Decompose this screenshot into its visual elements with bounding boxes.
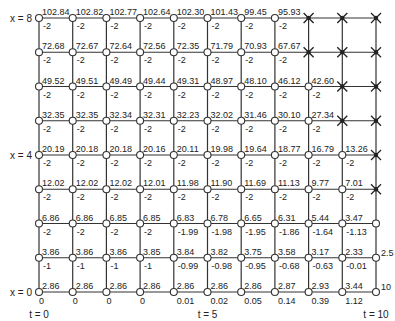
node-value: 49.49 bbox=[109, 76, 132, 86]
node-value: 2.87 bbox=[278, 281, 296, 291]
node-value: 20.16 bbox=[143, 144, 166, 154]
node-value: 3.82 bbox=[211, 247, 229, 257]
node-value: 3.75 bbox=[244, 247, 262, 257]
node-slope: -2 bbox=[178, 21, 186, 31]
bottom-value: 0 bbox=[73, 296, 78, 306]
node-value: 3.17 bbox=[312, 247, 330, 257]
node-slope: -2 bbox=[144, 90, 152, 100]
node-value: 32.23 bbox=[177, 110, 200, 120]
node-value: 49.31 bbox=[177, 76, 200, 86]
node-slope: -1 bbox=[110, 261, 118, 271]
node-slope: -2 bbox=[43, 124, 51, 134]
node-slope: -2 bbox=[212, 90, 220, 100]
bottom-value: 0 bbox=[140, 296, 145, 306]
node-slope: -1.86 bbox=[279, 227, 300, 237]
bottom-value: 0.05 bbox=[244, 296, 262, 306]
node-value: 72.35 bbox=[177, 41, 200, 51]
node-slope: -1.99 bbox=[178, 227, 199, 237]
node-value: 32.31 bbox=[143, 110, 166, 120]
node-value: 2.86 bbox=[143, 281, 161, 291]
node-value: 72.64 bbox=[109, 41, 132, 51]
boundary-value-label: 2.5 bbox=[381, 248, 394, 258]
node-slope: -2 bbox=[144, 124, 152, 134]
node-slope: -1.13 bbox=[346, 227, 367, 237]
node-value: 16.79 bbox=[312, 144, 335, 154]
row-axis-label: x = 4 bbox=[10, 150, 32, 161]
node-slope: -2 bbox=[178, 55, 186, 65]
node-value: 49.52 bbox=[42, 76, 65, 86]
node-slope: -2 bbox=[43, 55, 51, 65]
node-value: 3.84 bbox=[177, 247, 195, 257]
node-value: 2.93 bbox=[312, 281, 330, 291]
node-slope: -2 bbox=[245, 90, 253, 100]
node-value: 20.18 bbox=[109, 144, 132, 154]
node-slope: -2 bbox=[245, 158, 253, 168]
node-value: 71.79 bbox=[211, 41, 234, 51]
node-slope: -2 bbox=[245, 124, 253, 134]
node-value: 12.02 bbox=[42, 178, 65, 188]
node-slope: -2 bbox=[110, 21, 118, 31]
node-slope: -2 bbox=[43, 227, 51, 237]
node-slope: -2 bbox=[110, 124, 118, 134]
node-value: 42.60 bbox=[312, 76, 335, 86]
node-slope: -2 bbox=[313, 192, 321, 202]
node-value: 12.02 bbox=[109, 178, 132, 188]
node-slope: -1 bbox=[77, 261, 85, 271]
node-slope: -0.68 bbox=[279, 261, 300, 271]
node-slope: -1 bbox=[144, 261, 152, 271]
node-value: 6.65 bbox=[244, 213, 262, 223]
col-axis-label: t = 10 bbox=[363, 309, 389, 320]
bottom-value: 0.39 bbox=[312, 296, 330, 306]
node-value: 19.98 bbox=[211, 144, 234, 154]
node-slope: -2 bbox=[212, 192, 220, 202]
node-slope: -2 bbox=[110, 227, 118, 237]
node-value: 6.86 bbox=[76, 213, 94, 223]
row-axis-label: x = 8 bbox=[10, 13, 32, 24]
grid-node bbox=[373, 289, 380, 296]
node-slope: -1.95 bbox=[245, 227, 266, 237]
node-slope: -2 bbox=[77, 55, 85, 65]
node-slope: -2 bbox=[279, 90, 287, 100]
node-value: 46.12 bbox=[278, 76, 301, 86]
node-slope: -2 bbox=[279, 21, 287, 31]
node-slope: -0.98 bbox=[212, 261, 233, 271]
node-slope: -2 bbox=[77, 90, 85, 100]
node-value: 102.64 bbox=[143, 7, 171, 17]
grid-labels: 102.84102.82102.77102.64102.30101.4399.4… bbox=[10, 7, 393, 320]
grid-node bbox=[373, 254, 380, 261]
node-value: 102.30 bbox=[177, 7, 205, 17]
bottom-value: 0.14 bbox=[278, 296, 296, 306]
node-value: 95.93 bbox=[278, 7, 301, 17]
node-slope: -2 bbox=[212, 158, 220, 168]
node-value: 31.46 bbox=[244, 110, 267, 120]
node-slope: -2 bbox=[144, 21, 152, 31]
node-slope: -2 bbox=[313, 124, 321, 134]
node-value: 6.78 bbox=[211, 213, 229, 223]
node-slope: -2 bbox=[346, 158, 354, 168]
node-slope: -2 bbox=[110, 192, 118, 202]
node-value: 12.02 bbox=[76, 178, 99, 188]
node-slope: -2 bbox=[144, 192, 152, 202]
node-value: 3.86 bbox=[109, 247, 127, 257]
node-slope: -2 bbox=[77, 21, 85, 31]
node-value: 6.31 bbox=[278, 213, 296, 223]
node-value: 2.33 bbox=[345, 247, 363, 257]
node-slope: -2 bbox=[212, 21, 220, 31]
node-value: 2.86 bbox=[109, 281, 127, 291]
node-slope: -2 bbox=[43, 192, 51, 202]
node-slope: -2 bbox=[77, 158, 85, 168]
node-slope: -2 bbox=[110, 158, 118, 168]
col-axis-label: t = 5 bbox=[198, 309, 218, 320]
node-value: 102.84 bbox=[42, 7, 70, 17]
node-slope: -2 bbox=[178, 124, 186, 134]
node-value: 20.18 bbox=[76, 144, 99, 154]
node-value: 99.45 bbox=[244, 7, 267, 17]
node-value: 3.44 bbox=[345, 281, 363, 291]
node-value: 102.82 bbox=[76, 7, 104, 17]
boundary-value-label: 10 bbox=[381, 282, 391, 292]
node-slope: -2 bbox=[279, 55, 287, 65]
node-value: 6.85 bbox=[143, 213, 161, 223]
node-slope: -2 bbox=[110, 55, 118, 65]
node-value: 13.26 bbox=[345, 144, 368, 154]
node-slope: -2 bbox=[178, 192, 186, 202]
